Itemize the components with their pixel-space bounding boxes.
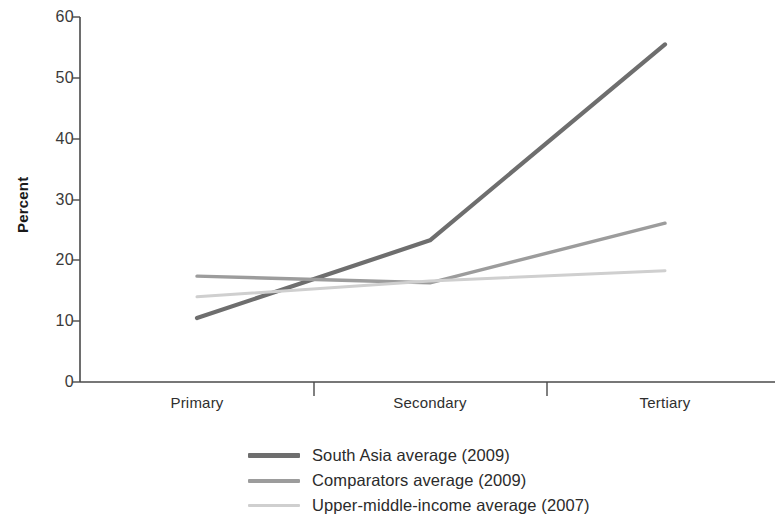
legend-item[interactable]: South Asia average (2009) [248,443,768,468]
legend-swatch-icon [248,504,300,508]
legend-swatch-icon [248,453,300,458]
legend-item[interactable]: Comparators average (2009) [248,468,768,493]
series-lines [197,44,665,318]
legend-swatch-icon [248,479,300,483]
chart-legend: South Asia average (2009)Comparators ave… [248,443,768,518]
legend-label: South Asia average (2009) [312,446,510,465]
legend-label: Comparators average (2009) [312,471,526,490]
x-tick-label-primary: Primary [170,394,223,411]
plot-area [0,0,775,440]
y-axis-ticks [72,17,80,382]
legend-item[interactable]: Upper-middle-income average (2007) [248,493,768,518]
x-tick-label-secondary: Secondary [393,394,467,411]
x-tick-label-tertiary: Tertiary [640,394,691,411]
line-chart: Percent 60 50 40 30 20 10 0 P [0,0,775,519]
legend-label: Upper-middle-income average (2007) [312,496,590,515]
